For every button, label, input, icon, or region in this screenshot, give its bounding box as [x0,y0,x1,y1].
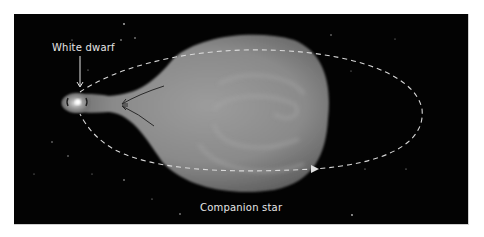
white-dwarf-pointer-arrow [77,56,83,87]
diagram-panel: White dwarf Companion star [14,14,469,225]
orbit-arrowhead-icon [311,165,319,173]
white-dwarf-label: White dwarf [52,42,115,53]
companion-star-label: Companion star [200,202,282,213]
white-dwarf [62,93,90,113]
